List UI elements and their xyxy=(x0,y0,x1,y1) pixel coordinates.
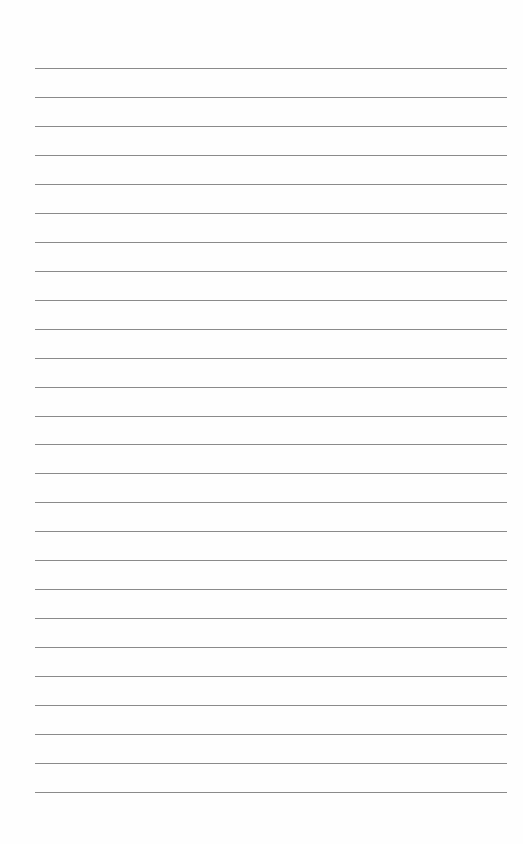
ruled-line xyxy=(35,329,507,330)
ruled-line xyxy=(35,155,507,156)
ruled-line xyxy=(35,589,507,590)
ruled-line xyxy=(35,763,507,764)
ruled-line xyxy=(35,473,507,474)
ruled-line xyxy=(35,618,507,619)
ruled-line xyxy=(35,184,507,185)
ruled-line xyxy=(35,647,507,648)
ruled-line xyxy=(35,242,507,243)
ruled-line xyxy=(35,734,507,735)
lined-paper-page xyxy=(0,0,523,844)
ruled-line xyxy=(35,68,507,69)
ruled-line xyxy=(35,271,507,272)
ruled-line xyxy=(35,97,507,98)
ruled-line xyxy=(35,502,507,503)
ruled-line xyxy=(35,416,507,417)
ruled-line xyxy=(35,213,507,214)
ruled-line xyxy=(35,676,507,677)
ruled-line xyxy=(35,358,507,359)
ruled-line xyxy=(35,126,507,127)
ruled-line xyxy=(35,705,507,706)
ruled-line xyxy=(35,531,507,532)
ruled-line xyxy=(35,444,507,445)
ruled-line xyxy=(35,792,507,793)
ruled-line xyxy=(35,300,507,301)
ruled-line xyxy=(35,560,507,561)
ruled-line xyxy=(35,387,507,388)
